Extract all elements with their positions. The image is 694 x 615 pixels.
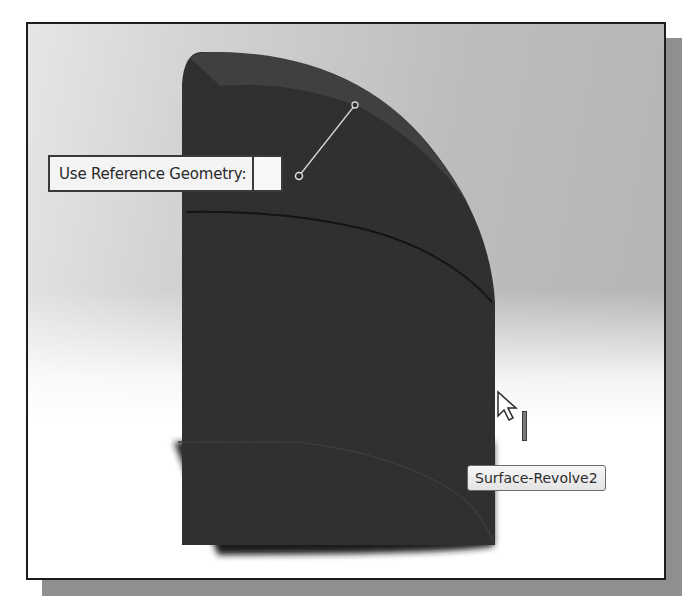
leader-endpoint-top	[352, 102, 358, 108]
surface-tooltip: Surface-Revolve2	[467, 465, 606, 491]
graphics-viewport[interactable]: Use Reference Geometry: Surface-Revolve2	[26, 22, 666, 580]
reference-geometry-input[interactable]	[252, 157, 281, 190]
callout-label: Use Reference Geometry:	[50, 157, 252, 190]
leader-endpoint-bottom	[296, 173, 303, 180]
model-render	[28, 24, 664, 578]
screenshot-canvas: Use Reference Geometry: Surface-Revolve2	[0, 0, 694, 615]
surface-select-icon	[522, 411, 527, 441]
reference-geometry-callout[interactable]: Use Reference Geometry:	[48, 155, 283, 192]
